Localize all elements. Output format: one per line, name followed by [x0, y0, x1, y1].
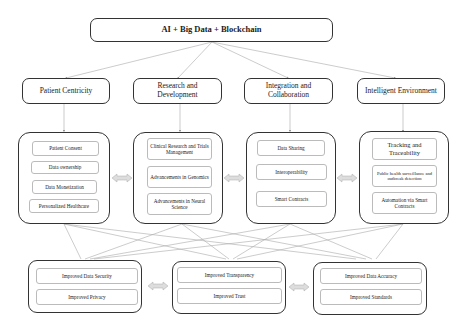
pillar-research-development: Research and Development	[133, 78, 222, 104]
connector-top-to-integration	[212, 42, 288, 78]
item-public-health-surveillance: Public health surveillance and outbreak …	[372, 165, 437, 187]
connector-top-to-intelligent-env	[212, 42, 395, 78]
item-clinical-research: Clinical Research and Trials Management	[147, 138, 212, 160]
double-arrow-icon	[337, 173, 357, 183]
item-improved-privacy: Improved Privacy	[36, 289, 138, 305]
pillar-integration-collaboration: Integration and Collaboration	[244, 78, 333, 104]
outcome-group-security: Improved Data Security Improved Privacy	[28, 260, 142, 313]
group-integration-collaboration: Data Sharing Interoperability Smart Cont…	[246, 132, 336, 224]
item-data-ownership: Data ownership	[31, 161, 99, 174]
item-improved-standards: Improved Standards	[320, 289, 422, 305]
group-intelligent-environment: Tracking and Traceability Public health …	[359, 131, 449, 224]
item-automation-smart-contracts: Automation via Smart Contracts	[372, 192, 437, 214]
group-research-development: Clinical Research and Trials Management …	[133, 132, 223, 224]
outcome-group-transparency: Improved Transparency Improved Trust	[172, 261, 286, 314]
item-personalized-healthcare: Personalized Healthcare	[29, 199, 99, 213]
item-genomics: Advancements in Genomics	[147, 166, 212, 188]
connector-top-to-patient-centricity	[66, 42, 212, 78]
pillar-patient-centricity: Patient Centricity	[22, 78, 110, 104]
item-improved-trust: Improved Trust	[177, 288, 282, 304]
pillar-intelligent-environment: Intelligent Environment	[357, 78, 445, 104]
item-patient-consent: Patient Consent	[32, 141, 99, 156]
double-arrow-icon	[148, 281, 168, 291]
connector-mesh	[64, 224, 403, 259]
item-interoperability: Interoperability	[256, 164, 327, 180]
double-arrow-icon	[112, 173, 132, 183]
item-improved-data-accuracy: Improved Data Accuracy	[320, 268, 422, 284]
item-tracking-traceability: Tracking and Traceability	[372, 138, 437, 160]
group-patient-centricity: Patient Consent Data ownership Data Mone…	[18, 132, 110, 224]
outcome-group-accuracy: Improved Data Accuracy Improved Standard…	[313, 262, 427, 315]
root-node: AI + Big Data + Blockchain	[90, 18, 333, 42]
item-improved-transparency: Improved Transparency	[177, 267, 282, 283]
double-arrow-icon	[224, 173, 244, 183]
item-improved-data-security: Improved Data Security	[36, 268, 138, 284]
item-data-monetization: Data Monetization	[32, 180, 97, 194]
item-neural-science: Advancements in Neural Science	[147, 193, 212, 215]
item-smart-contracts: Smart Contracts	[256, 191, 327, 207]
connector-top-to-research	[178, 42, 212, 78]
item-data-sharing: Data Sharing	[257, 140, 325, 156]
double-arrow-icon	[289, 282, 309, 292]
